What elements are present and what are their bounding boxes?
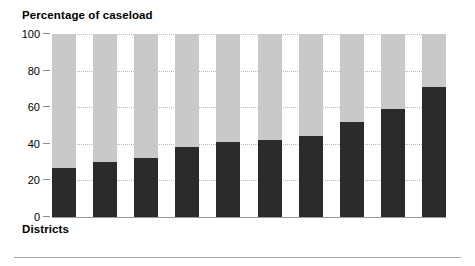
gridline-0 [52, 217, 446, 219]
y-tick-label: 0 [34, 210, 40, 224]
y-tick-label: 100 [22, 27, 40, 41]
bar-segment-upper[interactable] [216, 34, 240, 142]
y-tick-mark [43, 216, 50, 217]
bar-segment-lower[interactable] [175, 147, 199, 217]
y-tick-label: 60 [28, 100, 40, 114]
bar-segment-upper[interactable] [52, 34, 76, 168]
bar-group[interactable] [175, 34, 199, 217]
bar-segment-lower[interactable] [216, 142, 240, 217]
bar-segment-lower[interactable] [258, 140, 282, 217]
bar-group[interactable] [93, 34, 117, 217]
bar-group[interactable] [340, 34, 364, 217]
y-tick-label: 80 [28, 64, 40, 78]
bar-segment-lower[interactable] [93, 162, 117, 217]
y-tick-label: 40 [28, 137, 40, 151]
plot-area [52, 34, 446, 217]
y-tick-mark [43, 143, 50, 144]
chart-figure: Percentage of caseload 020406080100 Dist… [0, 0, 475, 266]
bar-segment-lower[interactable] [299, 136, 323, 217]
bar-segment-upper[interactable] [93, 34, 117, 162]
bottom-divider [14, 257, 461, 258]
bar-segment-upper[interactable] [381, 34, 405, 109]
bar-group[interactable] [299, 34, 323, 217]
bar-segment-lower[interactable] [52, 168, 76, 217]
bar-segment-lower[interactable] [134, 158, 158, 217]
bar-group[interactable] [381, 34, 405, 217]
y-tick-mark [43, 33, 50, 34]
y-tick-mark [43, 106, 50, 107]
bar-segment-upper[interactable] [422, 34, 446, 87]
bar-segment-upper[interactable] [134, 34, 158, 158]
chart-title: Percentage of caseload [22, 8, 153, 22]
bar-segment-upper[interactable] [299, 34, 323, 136]
bar-segment-lower[interactable] [381, 109, 405, 217]
x-axis-label: Districts [22, 223, 69, 235]
bar-group[interactable] [134, 34, 158, 217]
y-tick-mark [43, 179, 50, 180]
bar-segment-upper[interactable] [340, 34, 364, 122]
bar-group[interactable] [216, 34, 240, 217]
bar-segment-upper[interactable] [258, 34, 282, 140]
bar-segment-upper[interactable] [175, 34, 199, 147]
y-tick-mark [43, 70, 50, 71]
bar-group[interactable] [52, 34, 76, 217]
bar-segment-lower[interactable] [340, 122, 364, 217]
bar-group[interactable] [422, 34, 446, 217]
bar-group[interactable] [258, 34, 282, 217]
y-tick-label: 20 [28, 173, 40, 187]
bar-segment-lower[interactable] [422, 87, 446, 217]
